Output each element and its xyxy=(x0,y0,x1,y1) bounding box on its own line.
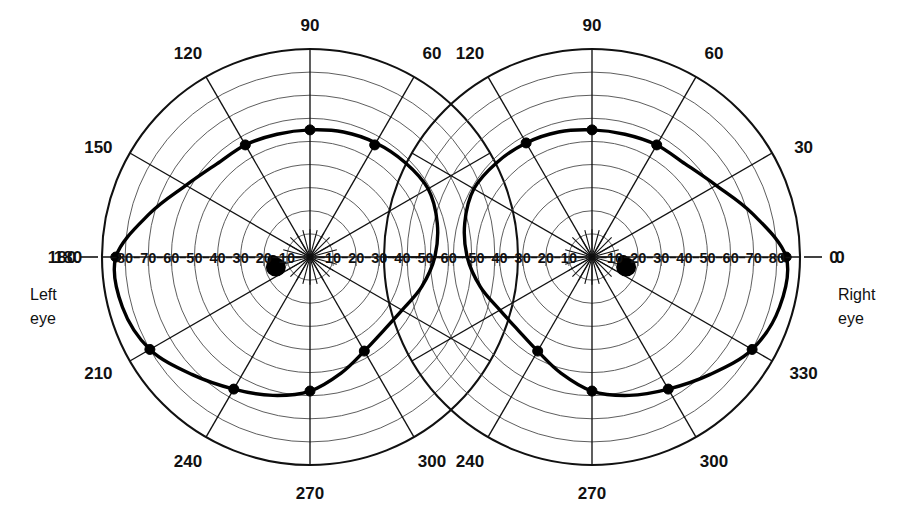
h-axis-label-left-eye-n20: 20 xyxy=(256,250,272,266)
isopter-point xyxy=(229,384,239,394)
meridian-label-right-eye-330: 330 xyxy=(789,364,817,383)
h-axis-label-right-eye-n50: 50 xyxy=(468,250,484,266)
isopter-point xyxy=(587,386,597,396)
h-axis-label-right-eye-t40: 40 xyxy=(676,250,692,266)
meridian-label-right-eye-30: 30 xyxy=(794,138,813,157)
meridian-label-right-eye-300: 300 xyxy=(700,452,728,471)
isopter-point xyxy=(533,346,543,356)
h-axis-label-right-eye-t80: 80 xyxy=(769,250,785,266)
meridian-label-left-eye-210: 210 xyxy=(84,364,112,383)
h-axis-label-right-eye-t10: 10 xyxy=(607,250,623,266)
meridian-label-left-eye-120: 120 xyxy=(174,44,202,63)
h-axis-label-left-eye-n60: 60 xyxy=(163,250,179,266)
meridian-label-right-eye-240: 240 xyxy=(456,452,484,471)
h-axis-label-right-eye-t30: 30 xyxy=(653,250,669,266)
h-axis-label-right-eye-t70: 70 xyxy=(746,250,762,266)
meridian-label-right-eye-120: 120 xyxy=(456,44,484,63)
meridian-label-left-eye-300: 300 xyxy=(418,452,446,471)
outer-boundary-label-right-0: 0 xyxy=(835,248,844,267)
isopter-point xyxy=(747,344,757,354)
meridian-label-left-eye-90: 90 xyxy=(301,16,320,35)
isopter-point xyxy=(663,384,673,394)
meridian-label-left-eye-240: 240 xyxy=(174,452,202,471)
h-axis-label-right-eye-n30: 30 xyxy=(515,250,531,266)
h-axis-label-left-eye-t30: 30 xyxy=(371,250,387,266)
right-eye-label-line1: Right xyxy=(838,286,876,303)
isopter-point xyxy=(305,386,315,396)
left-eye-label-line1: Left xyxy=(30,286,57,303)
meridian-label-right-eye-270: 270 xyxy=(578,484,606,503)
left-eye-label-line2: eye xyxy=(30,310,56,327)
polar-perimetry-chart: 1801501209060300270240210120906030033030… xyxy=(0,0,906,517)
h-axis-label-right-eye-n10: 10 xyxy=(561,250,577,266)
meridian-label-right-eye-60: 60 xyxy=(705,44,724,63)
meridian-label-right-eye-90: 90 xyxy=(583,16,602,35)
h-axis-label-right-eye-n20: 20 xyxy=(538,250,554,266)
right-eye-label-line2: eye xyxy=(838,310,864,327)
isopter-point xyxy=(587,125,597,135)
visual-field-figure: 1801501209060300270240210120906030033030… xyxy=(0,0,906,517)
h-axis-label-right-eye-t50: 50 xyxy=(699,250,715,266)
isopter-point xyxy=(305,125,315,135)
h-axis-label-left-eye-n50: 50 xyxy=(186,250,202,266)
meridian-label-left-eye-60: 60 xyxy=(423,44,442,63)
h-axis-label-right-eye-n40: 40 xyxy=(491,250,507,266)
h-axis-label-left-eye-n40: 40 xyxy=(209,250,225,266)
isopter-point xyxy=(145,344,155,354)
h-axis-label-right-eye-t60: 60 xyxy=(723,250,739,266)
meridian-label-left-eye-150: 150 xyxy=(84,138,112,157)
isopter-point xyxy=(521,138,531,148)
isopter-point xyxy=(240,140,250,150)
meridian-label-left-eye-270: 270 xyxy=(296,484,324,503)
h-axis-label-left-eye-t10: 10 xyxy=(325,250,341,266)
h-axis-label-left-eye-n30: 30 xyxy=(233,250,249,266)
isopter-point xyxy=(370,140,380,150)
h-axis-label-left-eye-n80: 80 xyxy=(117,250,133,266)
h-axis-label-left-eye-n10: 10 xyxy=(279,250,295,266)
isopter-point xyxy=(359,346,369,356)
isopter-point xyxy=(652,140,662,150)
h-axis-label-left-eye-t20: 20 xyxy=(348,250,364,266)
h-axis-label-right-eye-t20: 20 xyxy=(630,250,646,266)
outer-boundary-label-left-180: 180 xyxy=(48,248,76,267)
h-axis-label-left-eye-n70: 70 xyxy=(140,250,156,266)
